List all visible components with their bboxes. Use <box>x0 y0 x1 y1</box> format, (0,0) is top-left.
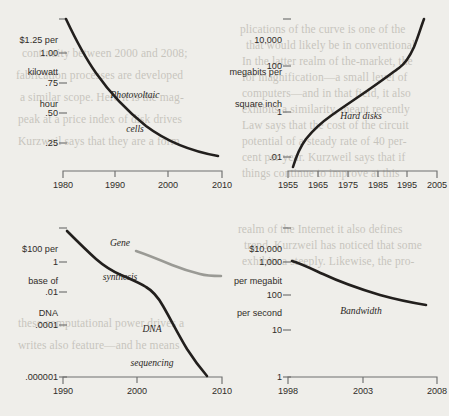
photovoltaic-xtick-4: 2010 <box>202 180 242 190</box>
bandwidth-xtick-2: 2003 <box>343 386 383 396</box>
gene-synthesis-series-label-line2: synthesis <box>88 271 152 282</box>
dna-y-ticks <box>59 228 67 377</box>
photovoltaic-series-label: Photovoltaic cells <box>95 66 175 157</box>
photovoltaic-y-axis-label-line2: kilowatt <box>0 67 58 78</box>
dna-ytick-4: .000001 <box>0 372 58 383</box>
hard-disks-x-axis <box>288 171 437 178</box>
photovoltaic-series-label-line1: Photovoltaic <box>95 89 175 100</box>
photovoltaic-series-label-line2: cells <box>95 123 175 134</box>
hard-disks-ytick-1: 100 <box>210 61 282 72</box>
hard-disks-y-axis-label-line1: 10,000 <box>210 35 282 46</box>
bandwidth-xtick-3: 2008 <box>417 386 449 396</box>
dna-ytick-3: .0001 <box>0 320 58 331</box>
hard-disks-y-ticks <box>283 19 291 157</box>
dna-y-axis-label-line3: DNA <box>0 308 58 319</box>
photovoltaic-xtick-1: 1980 <box>43 180 83 190</box>
bandwidth-series-label: Bandwidth <box>325 305 397 316</box>
photovoltaic-ytick-3: .50 <box>0 108 58 119</box>
bandwidth-curve <box>292 261 426 305</box>
photovoltaic-y-axis-label-line1: $1.25 per <box>0 35 58 46</box>
bandwidth-ytick-2: 100 <box>206 290 282 301</box>
hard-disks-curve <box>293 19 424 167</box>
hard-disks-series-label: Hard disks <box>325 110 397 121</box>
dna-ytick-2: .01 <box>0 287 58 298</box>
photovoltaic-x-axis <box>63 171 222 178</box>
bandwidth-y-axis-label-line3: per second <box>206 308 282 319</box>
photovoltaic-ytick-4: .25 <box>0 138 58 149</box>
bandwidth-y-axis-label: $10,000 per megabit per second <box>206 223 282 340</box>
bandwidth-ytick-1: 1,000 <box>206 257 282 268</box>
dna-sequencing-series-label-line2: sequencing <box>113 357 191 368</box>
technology-trends-figure: plications of the curve is one of the th… <box>0 0 449 416</box>
bandwidth-ytick-3: 10 <box>206 325 282 336</box>
chart-hard-disks <box>283 19 437 178</box>
dna-sequencing-series-label: DNA sequencing <box>113 300 191 391</box>
dna-xtick-1: 1990 <box>43 386 83 396</box>
hard-disks-ytick-3: .01 <box>210 152 282 163</box>
photovoltaic-xtick-2: 1990 <box>95 180 135 190</box>
dna-y-axis-label-line1: $100 per <box>0 244 58 255</box>
dna-xtick-3: 2010 <box>202 386 242 396</box>
bandwidth-ytick-4: 1 <box>206 372 282 383</box>
photovoltaic-ytick-1: 1.00 <box>0 48 58 59</box>
photovoltaic-xtick-3: 2000 <box>148 180 188 190</box>
photovoltaic-y-ticks <box>59 19 67 143</box>
bandwidth-y-ticks <box>283 228 291 377</box>
bandwidth-y-axis-label-line1: $10,000 <box>206 244 282 255</box>
dna-y-axis-label-line2: base of <box>0 276 58 287</box>
hard-disks-ytick-2: 1 <box>210 107 282 118</box>
dna-ytick-1: 1 <box>0 257 58 268</box>
dna-sequencing-series-label-line1: DNA <box>113 323 191 334</box>
gene-synthesis-series-label-line1: Gene <box>88 237 152 248</box>
hard-disks-xtick-6: 2005 <box>417 180 449 190</box>
gene-synthesis-series-label: Gene synthesis <box>88 214 152 305</box>
bandwidth-y-axis-label-line2: per megabit <box>206 276 282 287</box>
bandwidth-x-axis <box>288 377 437 384</box>
photovoltaic-ytick-2: .75 <box>0 78 58 89</box>
bandwidth-xtick-1: 1998 <box>268 386 308 396</box>
